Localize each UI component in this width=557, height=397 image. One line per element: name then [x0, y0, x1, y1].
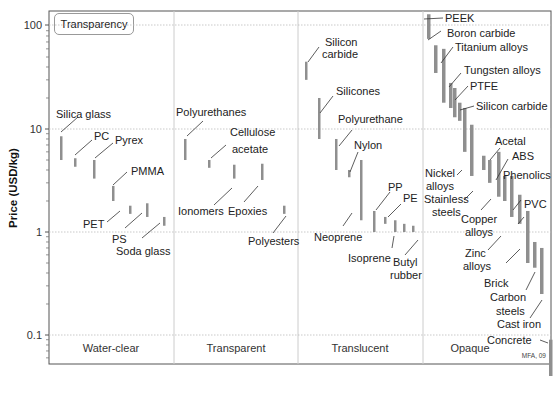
range-bar: [540, 248, 544, 294]
label-steels-1: steels: [432, 206, 461, 218]
label-polyurethanes: Polyurethanes: [176, 106, 247, 118]
label-nylon: Nylon: [354, 139, 382, 151]
range-bar: [305, 62, 308, 80]
range-bar: [74, 158, 77, 167]
label-phenolics: Phenolics: [503, 169, 551, 181]
range-bar: [208, 160, 211, 168]
label-pmma: PMMA: [131, 165, 165, 177]
label-steels-2: steels: [496, 305, 525, 317]
label-silicones: Silicones: [336, 85, 381, 97]
range-bar: [261, 164, 264, 180]
label-brick: Brick: [484, 277, 509, 289]
label-abs: ABS: [512, 150, 534, 162]
range-bar: [129, 206, 132, 214]
y-tick-1: 1: [36, 226, 42, 238]
label-cellulose: Cellulose: [230, 126, 275, 138]
range-bar: [510, 176, 514, 217]
range-bar: [184, 139, 187, 160]
range-bar: [360, 160, 363, 220]
label-soda-glass: Soda glass: [116, 245, 171, 257]
label-ionomers: Ionomers: [178, 205, 224, 217]
label-acetal: Acetal: [495, 135, 526, 147]
label-peek: PEEK: [445, 12, 475, 24]
y-axis-ticks: [45, 25, 49, 335]
range-bar: [434, 45, 438, 73]
range-bar: [163, 217, 166, 226]
label-ps: PS: [112, 233, 127, 245]
range-bar: [458, 103, 462, 121]
label-stainless: Stainless: [424, 193, 469, 205]
label-pvc: PVC: [524, 198, 547, 210]
range-bar: [488, 160, 492, 183]
y-tick-0.1: 0.1: [27, 329, 42, 341]
range-bar: [442, 49, 446, 103]
range-bar: [427, 14, 431, 39]
range-bar: [93, 160, 96, 179]
label-neoprene: Neoprene: [314, 231, 362, 243]
range-bar: [112, 186, 115, 201]
label-pet: PET: [83, 218, 105, 230]
range-bar: [283, 206, 286, 214]
category-transparent: Transparent: [207, 342, 266, 354]
label-copper: Copper: [461, 213, 497, 225]
label-rubber: rubber: [390, 269, 422, 281]
y-tick-100: 100: [24, 19, 42, 31]
column-dividers: [174, 11, 423, 364]
range-bar: [412, 226, 415, 232]
range-bar: [470, 125, 474, 176]
label-polyurethane: Polyurethane: [338, 113, 403, 125]
label-silicon-carbide-opaque: Silicon carbide: [476, 100, 548, 112]
label-titanium-alloys: Titanium alloys: [455, 41, 528, 53]
label-silica-glass: Silica glass: [56, 108, 112, 120]
range-bar: [60, 136, 63, 160]
category-water-clear: Water-clear: [83, 342, 140, 354]
range-bar: [318, 98, 321, 139]
material-labels: Silica glass PC Pyrex PMMA PET PS Soda g…: [56, 12, 551, 346]
range-bar: [394, 220, 397, 232]
label-nickel: Nickel: [425, 167, 455, 179]
range-bar: [146, 203, 149, 217]
label-alloys-3: alloys: [463, 260, 492, 272]
label-acetate: acetate: [232, 143, 268, 155]
range-bar: [497, 152, 501, 197]
label-butyl: Butyl: [393, 256, 417, 268]
range-bar: [549, 340, 553, 376]
label-pyrex: Pyrex: [115, 134, 144, 146]
label-silicon-carbide-1: Silicon: [325, 36, 357, 48]
range-bar: [384, 217, 387, 224]
range-bar: [533, 242, 537, 268]
label-polyesters: Polyesters: [248, 235, 300, 247]
range-bar: [233, 165, 236, 179]
label-carbon: Carbon: [490, 291, 526, 303]
label-pe: PE: [403, 192, 418, 204]
category-opaque: Opaque: [450, 342, 489, 354]
label-tungsten-alloys: Tungsten alloys: [464, 64, 541, 76]
range-bar: [482, 156, 486, 170]
label-alloys-1: alloys: [426, 180, 455, 192]
range-bar: [335, 139, 338, 170]
range-bar: [518, 195, 522, 224]
y-tick-10: 10: [30, 123, 42, 135]
label-epoxies: Epoxies: [228, 205, 268, 217]
range-bar: [526, 211, 530, 263]
label-boron-carbide: Boron carbide: [447, 27, 516, 39]
range-bar: [453, 88, 457, 117]
label-alloys-2: alloys: [465, 226, 494, 238]
label-isoprene: Isoprene: [348, 252, 391, 264]
range-bar: [373, 211, 376, 232]
label-concrete: Concrete: [487, 334, 532, 346]
range-bar: [403, 224, 406, 232]
price-chart: 100 10 1 0.1 Price (USD/kg) Water-clear …: [0, 0, 557, 397]
category-translucent: Translucent: [331, 342, 388, 354]
credit: MFA, 09: [522, 352, 547, 359]
label-ptfe: PTFE: [470, 80, 498, 92]
y-axis-label: Price (USD/kg): [7, 148, 19, 228]
label-cast-iron: Cast iron: [497, 318, 541, 330]
label-pc: PC: [94, 130, 109, 142]
range-bar: [463, 108, 467, 152]
label-pp: PP: [388, 181, 403, 193]
label-silicon-carbide-2: carbide: [322, 48, 358, 60]
label-zinc: Zinc: [465, 247, 486, 259]
